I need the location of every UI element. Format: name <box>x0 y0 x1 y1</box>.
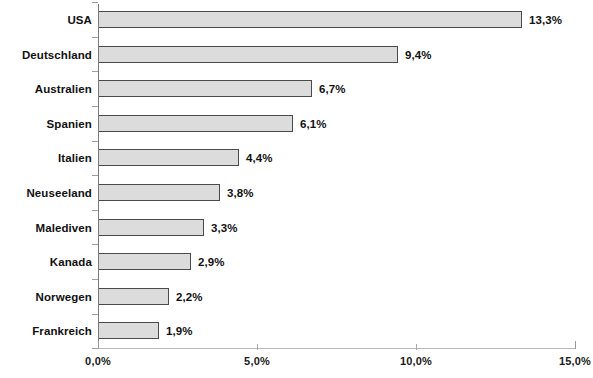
x-axis-tick-label: 0,0% <box>85 355 111 367</box>
bar-value-label: 2,9% <box>198 254 225 270</box>
bar <box>99 322 159 339</box>
category-label: Italien <box>58 150 92 166</box>
bar <box>99 288 169 305</box>
y-axis-tick <box>92 348 98 349</box>
category-label: Kanada <box>50 254 92 270</box>
category-label: Malediven <box>35 220 92 236</box>
category-label: Norwegen <box>36 289 92 305</box>
bar-value-label: 6,1% <box>300 116 327 132</box>
bar <box>99 115 293 132</box>
y-axis-tick <box>92 106 98 107</box>
category-label: USA <box>67 12 92 28</box>
bar <box>99 219 204 236</box>
bar-row: USA13,3% <box>0 11 593 29</box>
y-axis-tick <box>92 37 98 38</box>
x-axis-line <box>98 348 576 349</box>
y-axis-tick <box>92 279 98 280</box>
bar-value-label: 2,2% <box>176 289 203 305</box>
category-label: Australien <box>35 81 92 97</box>
y-axis-tick <box>92 71 98 72</box>
bar-row: Frankreich1,9% <box>0 322 593 340</box>
x-axis-tick-label: 15,0% <box>559 355 591 367</box>
bar-value-label: 6,7% <box>319 81 346 97</box>
bar-chart: USA13,3%Deutschland9,4%Australien6,7%Spa… <box>0 0 593 378</box>
y-axis-tick <box>92 2 98 3</box>
bar-row: Spanien6,1% <box>0 115 593 133</box>
bar-row: Neuseeland3,8% <box>0 184 593 202</box>
bar-row: Deutschland9,4% <box>0 46 593 64</box>
bar-row: Kanada2,9% <box>0 253 593 271</box>
category-label: Deutschland <box>22 47 92 63</box>
y-axis-tick <box>92 244 98 245</box>
category-label: Spanien <box>47 116 92 132</box>
bar-value-label: 3,3% <box>211 220 238 236</box>
bar <box>99 11 522 28</box>
bar-value-label: 3,8% <box>227 185 254 201</box>
bar-value-label: 13,3% <box>529 12 562 28</box>
bar-row: Italien4,4% <box>0 149 593 167</box>
y-axis-tick <box>92 314 98 315</box>
x-axis-tick-label: 5,0% <box>244 355 270 367</box>
bar <box>99 46 398 63</box>
bar-row: Malediven3,3% <box>0 219 593 237</box>
bar-row: Australien6,7% <box>0 80 593 98</box>
bar-value-label: 4,4% <box>246 150 273 166</box>
bar <box>99 80 312 97</box>
bar-value-label: 9,4% <box>405 47 432 63</box>
x-axis-end-cap <box>575 341 576 349</box>
y-axis-tick <box>92 141 98 142</box>
bar <box>99 149 239 166</box>
x-axis-start-cap <box>98 341 99 349</box>
y-axis-tick <box>92 175 98 176</box>
category-label: Frankreich <box>32 323 92 339</box>
bar-value-label: 1,9% <box>166 323 193 339</box>
category-label: Neuseeland <box>26 185 92 201</box>
x-axis-tick-label: 10,0% <box>400 355 432 367</box>
bar-row: Norwegen2,2% <box>0 288 593 306</box>
x-axis-tick <box>416 344 417 350</box>
bar <box>99 253 191 270</box>
bar <box>99 184 220 201</box>
x-axis-tick <box>257 344 258 350</box>
y-axis-tick <box>92 210 98 211</box>
